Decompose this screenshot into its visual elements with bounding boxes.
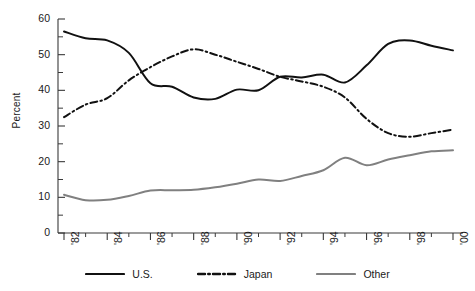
legend-swatch-u-s xyxy=(85,269,125,279)
legend-label-japan: Japan xyxy=(244,268,273,280)
x-tick-label: '00 xyxy=(458,231,470,245)
x-tick-label: '98 xyxy=(415,231,427,245)
chart-plot-area xyxy=(0,0,475,291)
y-axis-title: Percent xyxy=(11,81,22,141)
data-series-group xyxy=(64,31,453,200)
y-tick-label: 20 xyxy=(24,155,50,167)
y-tick-label: 40 xyxy=(24,83,50,95)
x-tick-label: '86 xyxy=(155,231,167,245)
y-tick-label: 60 xyxy=(24,12,50,24)
axes xyxy=(58,19,463,240)
legend-swatch-japan xyxy=(197,269,237,279)
y-tick-label: 50 xyxy=(24,48,50,60)
legend-item-other[interactable]: Other xyxy=(316,268,389,280)
line-chart: Percent 0102030405060 '82'84'86'88'90'92… xyxy=(0,0,475,291)
x-tick-label: '92 xyxy=(285,231,297,245)
series-line-u-s xyxy=(64,31,453,99)
legend-item-japan[interactable]: Japan xyxy=(197,268,273,280)
x-tick-label: '84 xyxy=(112,231,124,245)
legend-label-u-s: U.S. xyxy=(132,268,152,280)
legend-label-other: Other xyxy=(363,268,389,280)
series-line-other xyxy=(64,150,453,200)
y-tick-label: 10 xyxy=(24,190,50,202)
legend-item-u-s[interactable]: U.S. xyxy=(85,268,152,280)
y-tick-label: 30 xyxy=(24,119,50,131)
x-tick-label: '94 xyxy=(328,231,340,245)
x-tick-label: '88 xyxy=(199,231,211,245)
y-tick-label: 0 xyxy=(24,226,50,238)
chart-legend: U.S.JapanOther xyxy=(0,262,475,286)
x-tick-label: '90 xyxy=(242,231,254,245)
series-line-japan xyxy=(64,49,453,136)
x-tick-label: '96 xyxy=(372,231,384,245)
x-tick-label: '82 xyxy=(69,231,81,245)
legend-swatch-other xyxy=(316,269,356,279)
